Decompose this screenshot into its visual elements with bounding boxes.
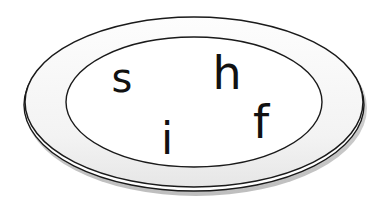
letter-i: i: [161, 113, 173, 164]
plate-illustration: s h i f: [0, 0, 380, 208]
letter-s: s: [112, 55, 133, 101]
plate-center: [66, 37, 322, 167]
letter-f: f: [253, 95, 271, 149]
letter-h: h: [212, 46, 241, 100]
